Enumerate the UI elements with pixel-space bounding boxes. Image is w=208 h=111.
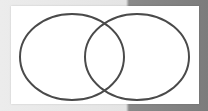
venn-diagram <box>0 0 208 111</box>
diagram-frame <box>0 0 208 111</box>
venn-set-right <box>85 14 189 100</box>
venn-set-left <box>20 14 124 100</box>
